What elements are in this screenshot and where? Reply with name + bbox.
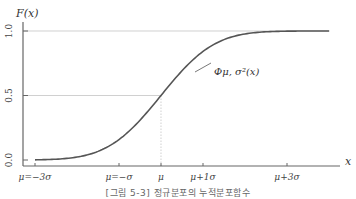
x-axis-title: x <box>345 155 352 168</box>
x-tick-label: μ=−σ <box>105 172 133 182</box>
x-tick-label: μ <box>158 172 164 182</box>
y-tick-label: 1.0 <box>4 24 14 39</box>
figure-caption: [그림 5-3] 정규분포의 누적분포함수 <box>0 186 356 199</box>
curve-annotation: Φμ, σ²(x) <box>214 66 259 77</box>
x-tick-label: μ=−3σ <box>19 172 53 182</box>
y-tick-label: 0.5 <box>4 88 14 103</box>
cdf-chart: 0.00.51.0 μ=−3σμ=−σμμ+1σμ+3σ F(x) x Φμ, … <box>0 0 356 199</box>
y-axis-title: F(x) <box>15 7 38 20</box>
y-tick-label: 0.0 <box>4 153 14 168</box>
annotation-leader <box>195 63 211 72</box>
x-tick-label: μ+1σ <box>190 172 216 182</box>
x-tick-label: μ+3σ <box>274 172 300 182</box>
